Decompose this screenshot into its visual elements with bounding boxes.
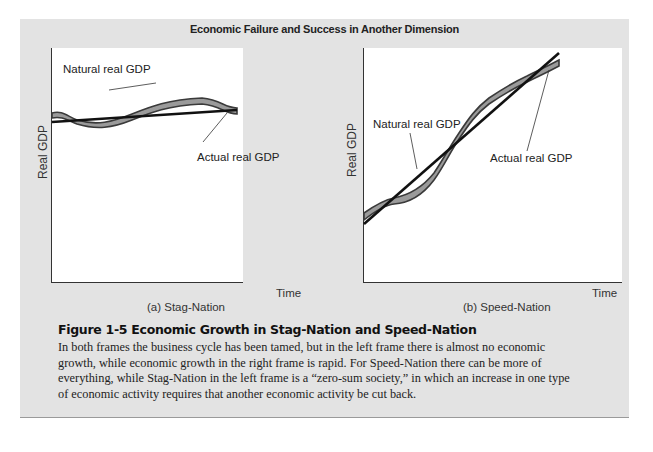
- natural-gdp-line: [364, 53, 559, 224]
- chart-a-lines: [52, 48, 243, 282]
- figure-panel: Economic Failure and Success in Another …: [20, 19, 629, 418]
- figure-number: Figure 1-5: [58, 322, 127, 337]
- figure-title: Figure 1-5 Economic Growth in Stag-Natio…: [58, 322, 477, 337]
- chart-a-actual-label: Actual real GDP: [197, 151, 279, 163]
- figure-heading: Economic Growth in Stag-Nation and Speed…: [131, 322, 476, 337]
- chart-a-y-axis-label: Real GDP: [36, 125, 50, 179]
- chart-b-x-axis-label: Time: [592, 287, 617, 299]
- chart-a-natural-label: Natural real GDP: [63, 63, 151, 75]
- figure-caption: In both frames the business cycle has be…: [58, 340, 583, 402]
- actual-leader-line: [203, 113, 227, 142]
- actual-leader-line: [527, 70, 549, 151]
- panel-title: Economic Failure and Success in Another …: [20, 23, 629, 35]
- chart-b-actual-label: Actual real GDP: [490, 152, 572, 164]
- chart-a-subtitle: (a) Stag-Nation: [147, 301, 225, 313]
- chart-a-plot-area: [51, 48, 243, 283]
- natural-leader-line: [410, 133, 417, 169]
- chart-b-plot-area: [363, 48, 622, 283]
- chart-b-y-axis-label: Real GDP: [345, 123, 359, 177]
- chart-b-natural-label: Natural real GDP: [373, 118, 461, 130]
- natural-leader-line: [109, 83, 156, 90]
- chart-b-subtitle: (b) Speed-Nation: [463, 301, 551, 313]
- chart-b-lines: [364, 48, 622, 282]
- chart-a-x-axis-label: Time: [276, 287, 301, 299]
